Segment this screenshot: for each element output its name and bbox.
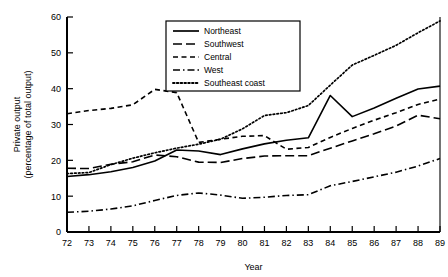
x-tick-label: 86: [369, 238, 379, 248]
y-axis-title-line-1: Private output: [12, 96, 22, 152]
legend-label: Central: [204, 52, 232, 62]
x-tick-label: 77: [172, 238, 182, 248]
x-axis-tick-labels: 727374757677787980818283848586878889: [62, 226, 445, 248]
legend-label: Southwest: [204, 39, 244, 49]
chart-legend: NortheastSouthwestCentralWestSoutheast c…: [166, 21, 300, 91]
x-tick-label: 74: [106, 238, 116, 248]
x-tick-label: 75: [128, 238, 138, 248]
y-tick-label: 40: [51, 84, 61, 94]
y-tick-label: 0: [56, 227, 61, 237]
series-line-west: [67, 159, 440, 213]
x-tick-label: 88: [413, 238, 423, 248]
y-axis-title-line-2: (percentage of total output): [23, 70, 33, 178]
series-line-central: [67, 89, 440, 149]
x-tick-label: 83: [303, 238, 313, 248]
x-tick-label: 79: [216, 238, 226, 248]
x-axis-title: Year: [244, 262, 262, 272]
legend-label: Southeast coast: [204, 78, 266, 88]
chart-figure: Private output(percentage of total outpu…: [0, 0, 448, 277]
x-tick-label: 73: [84, 238, 94, 248]
y-axis-title: Private output(percentage of total outpu…: [12, 70, 33, 178]
x-tick-label: 82: [281, 238, 291, 248]
y-tick-label: 10: [51, 192, 61, 202]
legend-label: West: [204, 65, 224, 75]
y-tick-label: 20: [51, 156, 61, 166]
x-tick-label: 80: [238, 238, 248, 248]
x-tick-label: 81: [259, 238, 269, 248]
x-tick-label: 84: [325, 238, 335, 248]
y-tick-label: 60: [51, 12, 61, 22]
x-tick-label: 89: [435, 238, 445, 248]
legend-label: Northeast: [204, 26, 241, 36]
y-tick-label: 30: [51, 120, 61, 130]
y-axis-tick-labels: 0102030405060: [51, 12, 73, 237]
x-axis-title-text: Year: [244, 262, 262, 272]
x-tick-label: 87: [391, 238, 401, 248]
x-tick-label: 72: [62, 238, 72, 248]
x-tick-label: 85: [347, 238, 357, 248]
x-tick-label: 76: [150, 238, 160, 248]
y-tick-label: 50: [51, 48, 61, 58]
line-chart: Private output(percentage of total outpu…: [0, 0, 448, 277]
x-tick-label: 78: [194, 238, 204, 248]
